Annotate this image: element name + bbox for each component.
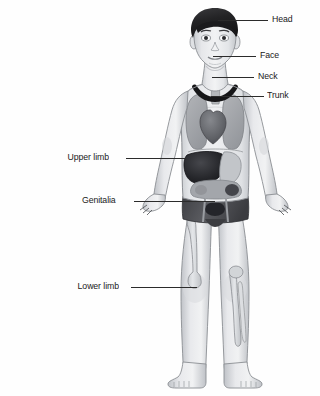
label-genitalia: Genitalia [82, 195, 116, 205]
right-elbow-shading [259, 137, 269, 155]
intestine-coil-left [195, 185, 207, 195]
label-trunk: Trunk [267, 90, 289, 100]
intestine-coil-right [225, 184, 239, 196]
label-head: Head [272, 14, 293, 24]
label-upper-limb: Upper limb [68, 152, 109, 162]
right-pupil [222, 36, 226, 40]
label-face: Face [260, 50, 279, 60]
feet-group [168, 362, 262, 388]
leader-line-genitalia [134, 201, 215, 202]
left-pupil [204, 36, 208, 40]
leader-line-upper-limb [126, 158, 186, 159]
label-neck: Neck [258, 71, 278, 81]
right-knee-joint [229, 266, 243, 278]
leader-line-lower-limb [131, 287, 197, 288]
leader-line-trunk [211, 96, 264, 97]
genitalia [205, 202, 225, 216]
head-group [190, 8, 240, 68]
left-hand [143, 194, 165, 211]
leader-line-neck [212, 77, 254, 78]
anatomy-diagram-page: Head Face Neck Trunk Upper limb Genitali… [0, 0, 320, 396]
leader-line-face [213, 56, 256, 57]
label-lower-limb: Lower limb [78, 281, 119, 291]
right-hand [266, 194, 288, 211]
leader-line-head [218, 20, 268, 21]
left-elbow-shading [162, 137, 172, 155]
